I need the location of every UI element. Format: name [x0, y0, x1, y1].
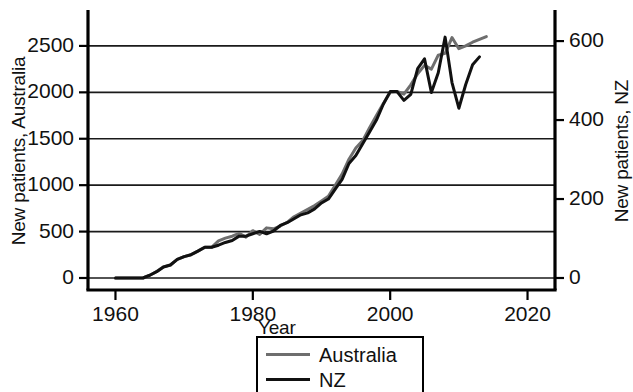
y-tick-label-left: 1000 — [0, 172, 74, 196]
legend-item: NZ — [266, 367, 422, 392]
legend-label: NZ — [319, 370, 346, 390]
legend-line-swatch — [266, 378, 310, 381]
x-tick-label: 2000 — [345, 302, 435, 326]
y-tick-label-right: 0 — [569, 265, 581, 289]
y-tick-label-left: 1500 — [0, 126, 74, 150]
x-tick-label: 1960 — [70, 302, 160, 326]
y-tick-label-right: 600 — [569, 28, 604, 52]
y-tick-label-right: 200 — [569, 186, 604, 210]
y-tick-label-left: 0 — [0, 265, 74, 289]
y-tick-label-right: 400 — [569, 107, 604, 131]
legend-line-swatch — [266, 353, 310, 356]
x-tick-label: 2020 — [483, 302, 573, 326]
x-tick-label: 1980 — [208, 302, 298, 326]
legend-label: Australia — [319, 345, 397, 365]
legend-item: Australia — [266, 342, 422, 367]
series-line-australia — [115, 37, 486, 278]
y-tick-label-left: 500 — [0, 219, 74, 243]
chart-legend: AustraliaNZ — [256, 336, 424, 392]
y-tick-label-left: 2000 — [0, 79, 74, 103]
series-line-nz — [115, 37, 479, 278]
y-tick-label-left: 2500 — [0, 33, 74, 57]
